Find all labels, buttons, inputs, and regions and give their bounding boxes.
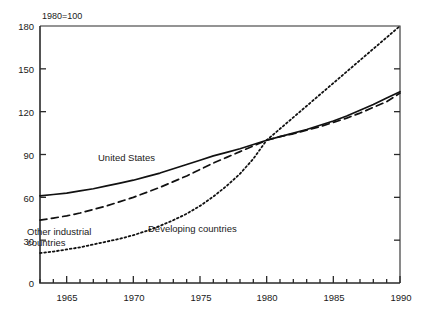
series-line-other-industrial-countries bbox=[40, 93, 400, 220]
chart-plot-area bbox=[0, 0, 422, 315]
chart-figure: 1980=100 180 150 120 90 60 30 0 1965 197… bbox=[0, 0, 422, 315]
series-line-united-states bbox=[40, 92, 400, 196]
series-group bbox=[40, 26, 400, 253]
series-line-developing-countries bbox=[40, 26, 400, 253]
